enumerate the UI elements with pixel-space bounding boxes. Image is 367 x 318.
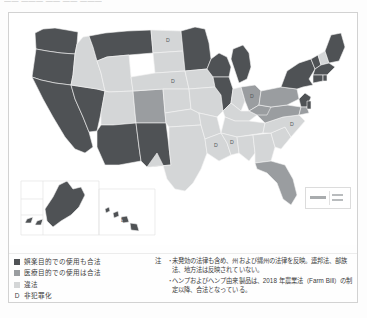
legend-swatch-illegal-icon xyxy=(14,282,20,288)
legend-divider xyxy=(9,253,357,254)
map-notes: 注 ・ 未発効の法律も含め、州および縄州の法律を反映。連邦法、部族法、地方法は反… xyxy=(155,256,353,295)
legend-label-decriminalized: 非犯罪化 xyxy=(24,292,52,300)
letter-label-LA: D xyxy=(214,142,218,148)
scale-bar-segment-b xyxy=(332,199,343,201)
letter-label-ND: D xyxy=(166,37,170,43)
letter-label-NE: D xyxy=(171,78,175,84)
state-UT[interactable] xyxy=(101,91,136,125)
letter-label-HI: D xyxy=(121,217,125,223)
legend-swatch-medical-icon xyxy=(14,270,20,276)
letter-label-NC: D xyxy=(290,121,294,127)
state-RI[interactable] xyxy=(323,75,327,81)
page-title: —— ——— —— —— ——— xyxy=(4,0,102,5)
legend-label-medical: 医療目的での使用は合法 xyxy=(24,269,101,277)
note-item-1: ・ 未発効の法律も含め、州および縄州の法律を反映。連邦法、部族法、地方法は反映さ… xyxy=(167,256,353,274)
legend-item-medical: 医療目的での使用は合法 xyxy=(14,268,154,279)
screenshot-root: —— ——— —— —— ——— .rec{fill:#4f5255;} .me… xyxy=(0,0,367,318)
scale-bar-segment-a xyxy=(332,194,343,196)
legend-letter-key-d: D xyxy=(14,293,20,299)
map-scale-bar xyxy=(305,187,351,209)
map-area[interactable]: .rec{fill:#4f5255;} .med{fill:#9a9da0;} … xyxy=(9,13,357,245)
legend-item-illegal: 違法 xyxy=(14,279,154,290)
note-item-2: ・ ヘンプおよびヘンプ由来製品は、2018 年農業法（Farm Bill）の制定… xyxy=(167,276,353,294)
notes-body: ・ 未発効の法律も含め、州および縄州の法律を反映。連邦法、部族法、地方法は反映さ… xyxy=(167,256,353,295)
legend-label-illegal: 違法 xyxy=(24,281,38,289)
letter-label-OH: D xyxy=(250,93,254,99)
state-AZ[interactable] xyxy=(97,123,141,165)
figure-frame: .rec{fill:#4f5255;} .med{fill:#9a9da0;} … xyxy=(8,12,358,303)
state-CO[interactable] xyxy=(133,89,166,123)
scale-bar-divider xyxy=(329,191,330,205)
legend-label-recreational: 娯楽目的での使用も合法 xyxy=(24,258,101,266)
state-GA[interactable] xyxy=(253,133,275,163)
legend-item-decriminalized: D 非犯罪化 xyxy=(14,291,154,302)
note-text-1: 未発効の法律も含め、州および縄州の法律を反映。連邦法、部族法、地方法は反映されて… xyxy=(172,256,353,274)
state-SD[interactable] xyxy=(153,51,185,73)
notes-heading: 注 xyxy=(155,256,167,295)
letter-label-MS: D xyxy=(230,139,234,145)
us-choropleth-map[interactable]: .rec{fill:#4f5255;} .med{fill:#9a9da0;} … xyxy=(9,13,357,245)
scale-bar-segment-main xyxy=(310,196,326,199)
legend-item-recreational: 娯楽目的での使用も合法 xyxy=(14,256,154,267)
state-MN[interactable] xyxy=(181,27,211,71)
map-legend: 娯楽目的での使用も合法 医療目的での使用は合法 違法 D 非犯罪化 xyxy=(14,256,154,302)
legend-swatch-recreational-icon xyxy=(14,259,20,265)
note-text-2: ヘンプおよびヘンプ由来製品は、2018 年農業法（Farm Bill）の制定以降… xyxy=(172,276,353,294)
state-DE[interactable] xyxy=(307,101,311,109)
